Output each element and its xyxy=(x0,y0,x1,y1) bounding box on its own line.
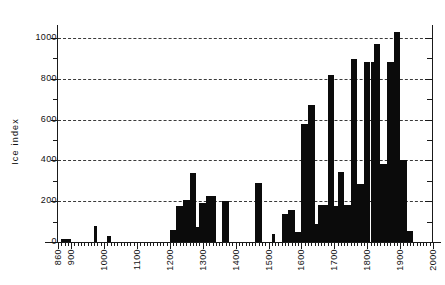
x-tick-1400 xyxy=(236,242,237,249)
x-tick-920 xyxy=(78,242,79,246)
x-tick-1610 xyxy=(305,242,306,246)
x-tick-label-1200: 1200 xyxy=(165,249,175,271)
x-tick-1740 xyxy=(347,242,348,246)
x-tick-1830 xyxy=(377,242,378,246)
x-tick-1280 xyxy=(196,242,197,246)
y-axis-title: Ice index xyxy=(10,118,20,165)
x-tick-1820 xyxy=(374,242,375,246)
x-tick-910 xyxy=(74,242,75,246)
bar-1630 xyxy=(311,105,314,242)
y-tick-label-1000: 1000 xyxy=(35,32,57,42)
bar-1930 xyxy=(410,231,413,242)
y-tick-label-400: 400 xyxy=(41,154,57,164)
y-tick-label-200: 200 xyxy=(41,195,57,205)
x-tick-1860 xyxy=(387,242,388,246)
x-tick-1020 xyxy=(111,242,112,246)
x-tick-1210 xyxy=(173,242,174,246)
bar-1910 xyxy=(403,160,406,242)
x-tick-1430 xyxy=(246,242,247,246)
x-tick-1980 xyxy=(426,242,427,246)
x-tick-1540 xyxy=(282,242,283,246)
x-tick-1940 xyxy=(413,242,414,246)
x-tick-1220 xyxy=(176,242,177,246)
y-tick-label-800: 800 xyxy=(41,73,57,83)
x-tick-1270 xyxy=(193,242,194,246)
x-tick-1260 xyxy=(190,242,191,246)
x-tick-1100 xyxy=(137,242,138,249)
x-tick-1370 xyxy=(226,242,227,246)
x-tick-1600 xyxy=(301,242,302,249)
x-tick-2000 xyxy=(433,242,434,249)
bar-1330 xyxy=(213,196,216,242)
x-tick-label-860: 860 xyxy=(53,249,63,265)
x-tick-label-1800: 1800 xyxy=(362,249,372,271)
x-tick-1750 xyxy=(351,242,352,246)
x-tick-1410 xyxy=(239,242,240,246)
x-tick-1760 xyxy=(354,242,355,246)
x-tick-1470 xyxy=(259,242,260,246)
x-tick-1670 xyxy=(324,242,325,246)
x-tick-1910 xyxy=(403,242,404,246)
y-tick-label-0: 0 xyxy=(52,236,57,246)
x-tick-1040 xyxy=(117,242,118,246)
x-tick-1240 xyxy=(183,242,184,246)
x-tick-1590 xyxy=(298,242,299,246)
x-tick-1390 xyxy=(232,242,233,246)
bar-1470 xyxy=(259,183,262,242)
x-tick-1300 xyxy=(203,242,204,249)
x-tick-990 xyxy=(101,242,102,246)
x-tick-870 xyxy=(61,242,62,246)
x-tick-1350 xyxy=(219,242,220,246)
x-tick-1130 xyxy=(147,242,148,246)
x-tick-label-1900: 1900 xyxy=(395,249,405,271)
x-tick-1710 xyxy=(338,242,339,246)
x-tick-860 xyxy=(58,242,59,249)
x-tick-1310 xyxy=(206,242,207,246)
x-tick-1700 xyxy=(334,242,335,249)
x-tick-1570 xyxy=(292,242,293,246)
x-tick-1420 xyxy=(242,242,243,246)
x-tick-1160 xyxy=(157,242,158,246)
x-tick-1890 xyxy=(397,242,398,246)
x-tick-1990 xyxy=(430,242,431,246)
ice-index-bar-chart: Ice index 02004006008001000 860900100011… xyxy=(0,0,445,285)
x-tick-1680 xyxy=(328,242,329,246)
x-tick-1720 xyxy=(341,242,342,246)
bar-1510 xyxy=(272,234,275,242)
x-tick-label-1600: 1600 xyxy=(296,249,306,271)
x-tick-1560 xyxy=(288,242,289,246)
x-tick-1230 xyxy=(180,242,181,246)
x-tick-1850 xyxy=(384,242,385,246)
x-tick-1950 xyxy=(417,242,418,246)
x-tick-1330 xyxy=(213,242,214,246)
x-tick-1460 xyxy=(255,242,256,246)
x-tick-1620 xyxy=(308,242,309,246)
x-tick-label-1400: 1400 xyxy=(231,249,241,271)
x-tick-label-2000: 2000 xyxy=(428,249,438,271)
bar-1010 xyxy=(107,236,110,242)
x-tick-1690 xyxy=(331,242,332,246)
x-tick-1650 xyxy=(318,242,319,246)
x-tick-label-1000: 1000 xyxy=(99,249,109,271)
x-tick-label-1700: 1700 xyxy=(329,249,339,271)
x-tick-1480 xyxy=(262,242,263,246)
x-tick-1090 xyxy=(134,242,135,246)
x-tick-1030 xyxy=(114,242,115,246)
x-tick-1510 xyxy=(272,242,273,246)
x-tick-1060 xyxy=(124,242,125,246)
x-tick-1180 xyxy=(163,242,164,246)
x-tick-1730 xyxy=(344,242,345,246)
x-tick-1380 xyxy=(229,242,230,246)
x-tick-1530 xyxy=(278,242,279,246)
x-tick-1070 xyxy=(127,242,128,246)
x-tick-1920 xyxy=(407,242,408,246)
x-tick-890 xyxy=(68,242,69,246)
x-tick-1050 xyxy=(121,242,122,246)
x-tick-1660 xyxy=(321,242,322,246)
x-tick-970 xyxy=(94,242,95,246)
x-tick-1340 xyxy=(216,242,217,246)
x-tick-1250 xyxy=(186,242,187,246)
plot-area xyxy=(58,38,433,242)
x-tick-1500 xyxy=(269,242,270,249)
x-tick-1190 xyxy=(167,242,168,246)
